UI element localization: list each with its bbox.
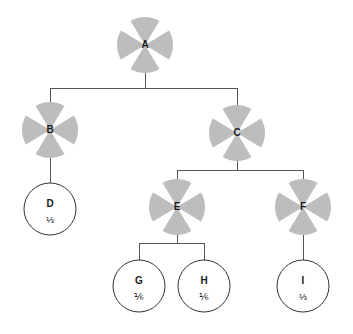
node-e-label: E: [174, 201, 181, 212]
node-b-label: B: [46, 124, 53, 135]
node-h-circle: [178, 260, 230, 312]
node-h-label: H: [200, 275, 207, 286]
edge-group-c: [177, 161, 303, 179]
node-g-label: G: [135, 275, 143, 286]
node-i-circle: [277, 260, 329, 312]
node-g[interactable]: G⅙: [113, 260, 165, 312]
node-i-fraction: ⅓: [299, 291, 307, 302]
node-g-fraction: ⅙: [134, 291, 144, 302]
node-d-circle: [24, 183, 76, 235]
edge-group-e: [139, 235, 204, 260]
node-d[interactable]: D⅓: [24, 183, 76, 235]
tree-diagram: ABCD⅓EFG⅙H⅙I⅓: [0, 0, 353, 334]
node-f[interactable]: F: [275, 179, 331, 235]
node-a[interactable]: A: [117, 17, 173, 73]
node-e[interactable]: E: [149, 179, 205, 235]
node-c-label: C: [233, 127, 240, 138]
node-h[interactable]: H⅙: [178, 260, 230, 312]
nodes-layer: ABCD⅓EFG⅙H⅙I⅓: [22, 17, 331, 312]
node-i-label: I: [302, 275, 305, 286]
edge-group-a: [50, 73, 237, 105]
node-h-fraction: ⅙: [199, 291, 209, 302]
node-f-label: F: [300, 201, 306, 212]
tree-diagram-canvas: ABCD⅓EFG⅙H⅙I⅓: [0, 0, 353, 334]
node-d-label: D: [46, 198, 53, 209]
node-c[interactable]: C: [209, 105, 265, 161]
node-g-circle: [113, 260, 165, 312]
node-i[interactable]: I⅓: [277, 260, 329, 312]
node-b[interactable]: B: [22, 102, 78, 158]
node-d-fraction: ⅓: [46, 214, 54, 225]
node-a-label: A: [141, 39, 148, 50]
